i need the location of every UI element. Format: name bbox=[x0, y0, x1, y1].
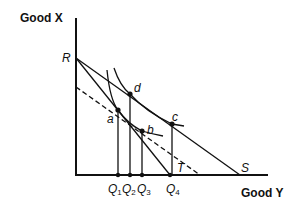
label-c: c bbox=[172, 110, 178, 124]
label-d: d bbox=[134, 81, 141, 95]
point-Q3 bbox=[140, 173, 144, 177]
label-R: R bbox=[62, 51, 71, 65]
point-Q2 bbox=[128, 173, 132, 177]
label-b: b bbox=[147, 123, 154, 137]
budget-constraint-diagram: Good X Good Y R S T a b c d Q1 Q2 Q3 Q4 bbox=[0, 0, 302, 206]
point-Q4 bbox=[168, 173, 172, 177]
label-Q4: Q4 bbox=[166, 182, 180, 197]
x-axis-title: Good Y bbox=[241, 186, 283, 200]
label-a: a bbox=[107, 112, 114, 126]
label-Q2: Q2 bbox=[122, 182, 136, 197]
point-b bbox=[139, 128, 144, 133]
point-d bbox=[127, 91, 132, 96]
y-axis-title: Good X bbox=[20, 11, 63, 25]
point-Q1 bbox=[116, 173, 120, 177]
label-Q1: Q1 bbox=[108, 182, 122, 197]
label-T: T bbox=[177, 161, 186, 175]
indifference-curve-1 bbox=[107, 70, 163, 136]
label-S: S bbox=[241, 161, 249, 175]
label-Q3: Q3 bbox=[137, 182, 151, 197]
point-a bbox=[115, 107, 120, 112]
